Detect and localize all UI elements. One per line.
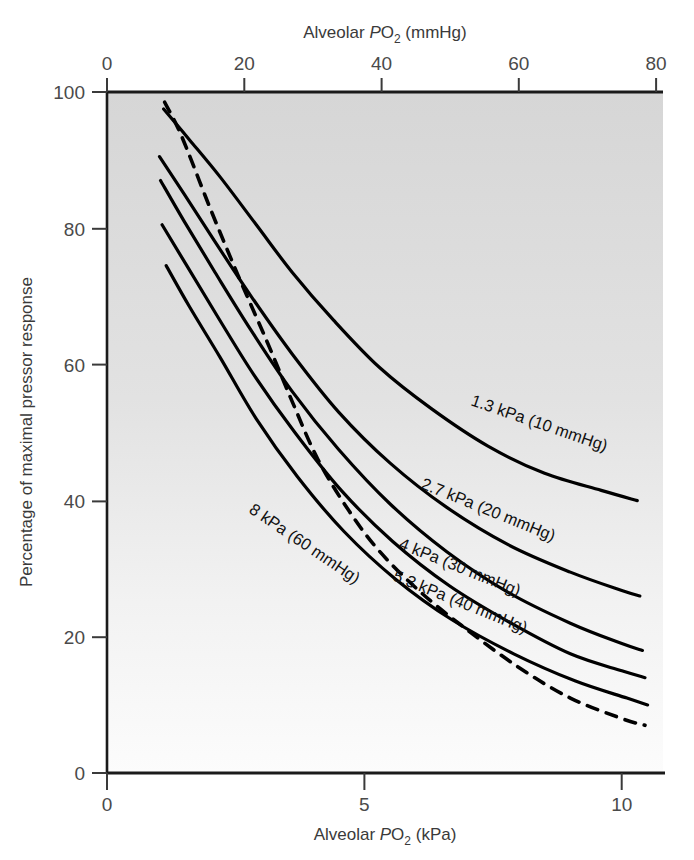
chart-figure: 0 20 40 60 80 Alveolar PO2 (mmHg) 100 80… [0,0,694,860]
top-tick-label-60: 60 [508,53,529,74]
top-axis-title: Alveolar PO2 (mmHg) [303,23,467,46]
bottom-axis-title-prefix: Alveolar [314,825,380,844]
bottom-tick-label-10: 10 [611,794,632,815]
bottom-axis-title-o: O [391,825,404,844]
left-tick-label-60: 60 [64,355,85,376]
chart-svg: 0 20 40 60 80 Alveolar PO2 (mmHg) 100 80… [0,0,694,860]
top-tick-label-40: 40 [371,53,392,74]
top-tick-label-0: 0 [102,53,113,74]
bottom-axis: 0 5 10 Alveolar PO2 (kPa) [102,773,665,848]
top-axis-title-o: O [381,23,394,42]
top-tick-label-80: 80 [646,53,667,74]
bottom-tick-label-5: 5 [359,794,370,815]
top-axis-title-italic: P [369,23,381,42]
left-tick-label-100: 100 [53,82,85,103]
left-tick-label-0: 0 [74,763,85,784]
bottom-axis-title: Alveolar PO2 (kPa) [314,825,457,848]
top-axis-title-suffix: (mmHg) [401,23,467,42]
left-axis: 100 80 60 40 20 0 Percentage of maximal … [17,82,107,784]
bottom-axis-title-italic: P [380,825,392,844]
top-axis: 0 20 40 60 80 Alveolar PO2 (mmHg) [102,23,667,92]
left-tick-label-20: 20 [64,627,85,648]
top-tick-label-20: 20 [234,53,255,74]
top-axis-title-prefix: Alveolar [303,23,369,42]
bottom-axis-title-suffix: (kPa) [411,825,456,844]
left-axis-title: Percentage of maximal pressor response [17,277,36,587]
left-tick-label-80: 80 [64,219,85,240]
bottom-tick-label-0: 0 [102,794,113,815]
left-tick-label-40: 40 [64,491,85,512]
